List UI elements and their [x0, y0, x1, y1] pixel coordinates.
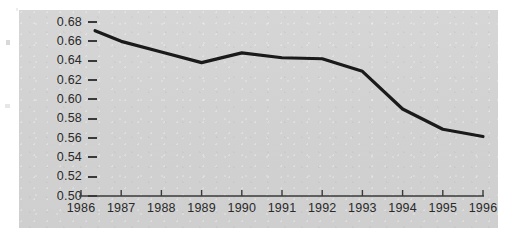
- plot-svg: [19, 10, 498, 228]
- scan-artifact: [5, 104, 10, 108]
- scan-artifact: [6, 40, 10, 45]
- x-axis-tick-marks: [81, 190, 483, 196]
- chart-screenshot: 0.680.660.640.620.600.580.560.540.520.50…: [0, 0, 517, 244]
- chart-panel: 0.680.660.640.620.600.580.560.540.520.50…: [19, 10, 498, 228]
- plot-area: 0.680.660.640.620.600.580.560.540.520.50…: [19, 10, 498, 228]
- data-line-series-1: [95, 31, 483, 137]
- scan-artifact: [16, 8, 18, 11]
